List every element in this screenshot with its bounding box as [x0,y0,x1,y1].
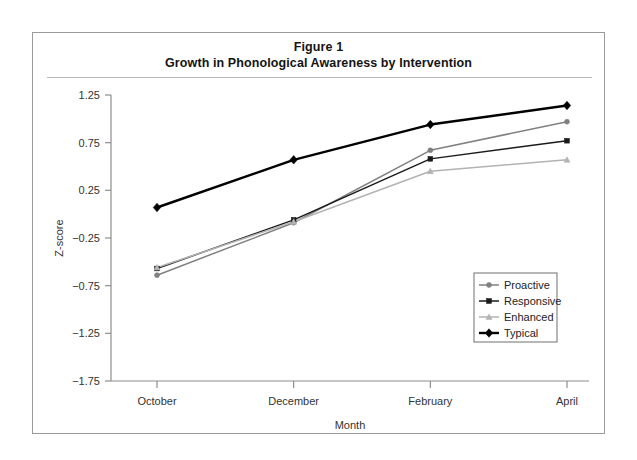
y-axis-title: Z-score [53,219,65,256]
data-point-circle [428,148,433,153]
y-axis-ticks: 1.250.750.25−0.25−0.75−1.25−1.75 [72,89,111,387]
data-point-circle [565,119,570,124]
series-line-typical [157,105,567,207]
data-point-square [487,299,492,304]
y-tick-label: 1.25 [79,89,100,101]
chart-legend: ProactiveResponsiveEnhancedTypical [474,273,561,342]
x-axis-ticks: OctoberDecemberFebruaryApril [137,381,578,407]
legend-label-responsive: Responsive [504,295,561,307]
y-tick-label: −0.75 [72,280,100,292]
legend-label-enhanced: Enhanced [504,311,554,323]
series-line-responsive [157,141,567,269]
y-tick-label: 0.25 [79,184,100,196]
line-chart: 1.250.750.25−0.25−0.75−1.25−1.75 October… [33,33,606,435]
y-tick-label: −1.25 [72,327,100,339]
x-tick-label: December [268,395,319,407]
data-point-square [565,138,570,143]
data-point-circle [155,273,160,278]
x-axis-title: Month [335,419,366,431]
data-point-diamond [290,156,297,164]
x-tick-label: February [408,395,453,407]
data-point-diamond [427,120,434,128]
data-series-group [153,101,570,277]
series-line-proactive [157,122,567,275]
data-point-diamond [563,101,570,109]
legend-label-typical: Typical [504,327,538,339]
legend-label-proactive: Proactive [504,279,550,291]
x-tick-label: October [137,395,176,407]
y-tick-label: 0.75 [79,137,100,149]
data-point-circle [487,283,492,288]
data-point-square [428,157,433,162]
data-point-diamond [153,203,160,211]
y-tick-label: −0.25 [72,232,100,244]
x-tick-label: April [556,395,578,407]
figure-frame: Figure 1 Growth in Phonological Awarenes… [32,32,605,434]
plot-area: 1.250.750.25−0.25−0.75−1.25−1.75 October… [33,33,606,435]
y-tick-label: −1.75 [72,375,100,387]
